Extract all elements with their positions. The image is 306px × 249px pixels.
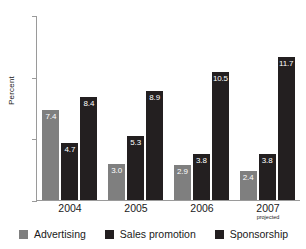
bar-slot: 2.4 (239, 16, 258, 200)
bar-value-label: 4.7 (61, 146, 78, 154)
x-axis-tick-year: 2004 (37, 203, 103, 214)
x-axis-tick-year: 2006 (169, 203, 235, 214)
x-axis-tick-year: 2005 (103, 203, 169, 214)
bar-value-label: 3.8 (193, 157, 210, 165)
x-axis-tick-label: 2006 (169, 203, 235, 221)
bar-value-label: 7.4 (42, 113, 59, 121)
bar-group: 3.05.38.9 (103, 16, 169, 200)
x-axis-tick-label: 2007projected (235, 203, 301, 221)
bar[interactable]: 7.4 (41, 109, 60, 200)
x-axis-tick-year: 2007 (235, 203, 301, 214)
bar-value-label: 3.0 (108, 167, 125, 175)
bar-slot: 2.9 (173, 16, 192, 200)
x-axis-tick-sublabel: projected (235, 215, 301, 221)
bar-slot: 7.4 (41, 16, 60, 200)
bar[interactable]: 5.3 (126, 135, 145, 200)
bar-slot: 11.7 (277, 16, 296, 200)
legend-item[interactable]: Sales promotion (104, 228, 196, 240)
legend-item[interactable]: Sponsorship (214, 228, 288, 240)
legend-label: Sponsorship (230, 228, 288, 240)
bar-slot: 4.7 (60, 16, 79, 200)
bar[interactable]: 4.7 (60, 142, 79, 200)
bar-value-label: 3.8 (259, 157, 276, 165)
bar-value-label: 8.4 (80, 100, 97, 108)
bar[interactable]: 8.4 (79, 96, 98, 200)
x-axis-tick-label: 2004 (37, 203, 103, 221)
x-axis-tick-label: 2005 (103, 203, 169, 221)
x-axis-line (36, 200, 300, 201)
chart-legend: AdvertisingSales promotionSponsorship (0, 228, 306, 240)
bar-slot: 3.0 (107, 16, 126, 200)
bar-value-label: 2.4 (240, 174, 257, 182)
legend-swatch (18, 229, 29, 240)
bar-value-label: 8.9 (146, 94, 163, 102)
legend-label: Sales promotion (120, 228, 196, 240)
bar-slot: 8.4 (79, 16, 98, 200)
x-axis-tick-labels: 2004200520062007projected (37, 203, 301, 221)
bar-value-label: 2.9 (174, 168, 191, 176)
legend-item[interactable]: Advertising (18, 228, 86, 240)
legend-swatch (214, 229, 225, 240)
bar-group: 2.93.810.5 (169, 16, 235, 200)
legend-swatch (104, 229, 115, 240)
bar[interactable]: 11.7 (277, 56, 296, 200)
bar[interactable]: 3.0 (107, 163, 126, 200)
bar-group: 2.43.811.7 (234, 16, 300, 200)
bar[interactable]: 2.4 (239, 170, 258, 200)
bar-value-label: 5.3 (127, 139, 144, 147)
bar-slot: 10.5 (211, 16, 230, 200)
bar-value-label: 11.7 (278, 60, 295, 68)
y-axis-tick (32, 201, 37, 202)
bar-slot: 8.9 (145, 16, 164, 200)
bar-chart-figure: Percent 051015 7.44.78.43.05.38.92.93.81… (0, 0, 306, 249)
bar[interactable]: 10.5 (211, 71, 230, 201)
bar-slot: 3.8 (258, 16, 277, 200)
bar-slot: 5.3 (126, 16, 145, 200)
bar[interactable]: 3.8 (192, 153, 211, 200)
bar[interactable]: 3.8 (258, 153, 277, 200)
y-axis-title: Percent (7, 56, 16, 126)
plot-area: 051015 7.44.78.43.05.38.92.93.810.52.43.… (36, 16, 300, 201)
bar-groups: 7.44.78.43.05.38.92.93.810.52.43.811.7 (37, 16, 300, 200)
bar-value-label: 10.5 (212, 75, 229, 83)
legend-label: Advertising (34, 228, 86, 240)
bar[interactable]: 8.9 (145, 90, 164, 200)
bar[interactable]: 2.9 (173, 164, 192, 200)
bar-slot: 3.8 (192, 16, 211, 200)
bar-group: 7.44.78.4 (37, 16, 103, 200)
